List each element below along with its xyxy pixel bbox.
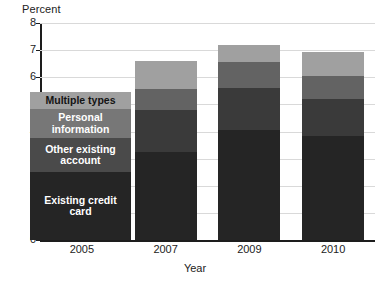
legend-item-label: Personal information (32, 112, 129, 135)
legend-item[interactable]: Personal information (30, 109, 131, 138)
bar-segment[interactable] (135, 152, 197, 240)
bar-2007[interactable] (135, 61, 197, 240)
x-tick-label-2010: 2010 (288, 243, 378, 255)
legend-item-label: Multiple types (32, 95, 129, 107)
x-tick-label-2005: 2005 (37, 243, 127, 255)
legend-item[interactable]: Other existing account (30, 138, 131, 172)
x-tick-label-2007: 2007 (121, 243, 211, 255)
bar-segment[interactable] (302, 99, 364, 136)
bar-2010[interactable] (302, 51, 364, 240)
y-axis-title: Percent (22, 3, 61, 15)
legend-item-label: Other existing account (32, 144, 129, 167)
bar-segment[interactable] (302, 52, 364, 76)
gridline (40, 240, 375, 242)
chart-legend: Multiple typesPersonal informationOther … (30, 92, 131, 240)
bar-segment[interactable] (135, 89, 197, 109)
bar-segment[interactable] (135, 110, 197, 152)
legend-item-label: Existing credit card (32, 195, 129, 218)
x-axis-title: Year (0, 262, 390, 274)
bar-segment[interactable] (218, 88, 280, 130)
y-tick-label: 8 (2, 16, 36, 28)
stacked-bar-chart: Percent 012345678 2005200720092010 Year … (0, 0, 390, 283)
y-tick-label: 6 (2, 70, 36, 82)
bar-segment[interactable] (302, 136, 364, 240)
bar-segment[interactable] (218, 45, 280, 63)
y-tick-label: 7 (2, 43, 36, 55)
bar-segment[interactable] (302, 76, 364, 99)
gridline (40, 23, 375, 24)
legend-item[interactable]: Existing credit card (30, 172, 131, 240)
bar-segment[interactable] (218, 130, 280, 240)
bar-2009[interactable] (218, 45, 280, 240)
bar-segment[interactable] (135, 61, 197, 89)
x-tick-label-2009: 2009 (204, 243, 294, 255)
bar-segment[interactable] (218, 62, 280, 88)
legend-item[interactable]: Multiple types (30, 92, 131, 109)
